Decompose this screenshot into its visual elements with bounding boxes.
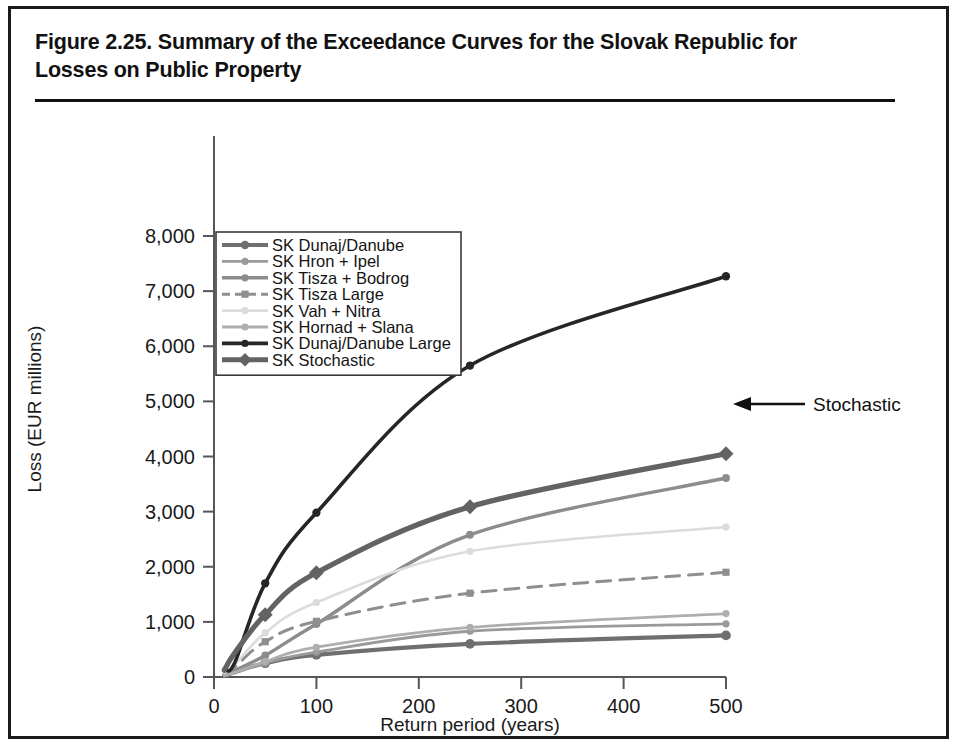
legend-item-7[interactable]: SK Stochastic [222,351,375,369]
series-marker-diamond [719,446,734,461]
series-marker-circle [721,631,731,641]
legend-label: SK Dunaj/Danube [272,236,404,254]
y-axis-ticks: 01,0002,0003,0004,0005,0006,0007,0008,00… [145,225,214,688]
x-axis-ticks: 0100200300400500 [208,677,742,717]
y-tick-label: 8,000 [145,225,195,247]
legend-label: SK Tisza Large [272,285,384,303]
series-0 [224,631,731,676]
series-marker-square [241,291,248,298]
series-marker-circle [466,548,473,555]
y-tick-label: 4,000 [145,446,195,468]
x-axis-title: Return period (years) [380,714,560,735]
series-marker-square [466,590,473,597]
series-marker-circle [241,274,248,281]
series-marker-diamond [463,499,478,514]
x-tick-label: 500 [709,695,742,717]
legend-label: SK Vah + Nitra [272,302,381,320]
annotation-label: Stochastic [813,394,901,415]
series-marker-circle [313,644,320,651]
y-tick-label: 2,000 [145,556,195,578]
series-marker-square [313,618,320,625]
y-tick-label: 7,000 [145,280,195,302]
y-tick-label: 1,000 [145,611,195,633]
series-marker-circle [241,307,248,314]
legend-label: SK Hornad + Slana [272,318,415,336]
series-marker-circle [465,639,475,649]
series-marker-circle [241,258,248,265]
legend-label: SK Tisza + Bodrog [272,269,409,287]
series-marker-circle [241,340,248,347]
y-tick-label: 6,000 [145,335,195,357]
y-tick-label: 5,000 [145,390,195,412]
chart-plot-area: 01,0002,0003,0004,0005,0006,0007,0008,00… [11,109,952,739]
annotation-arrow-head [733,397,751,411]
series-marker-circle [722,474,730,482]
x-tick-label: 0 [208,695,219,717]
series-marker-circle [313,599,320,606]
series-marker-circle [312,509,320,517]
legend-label: SK Dunaj/Danube Large [272,334,451,352]
figure-inner: Figure 2.25. Summary of the Exceedance C… [11,9,946,736]
series-marker-square [722,569,729,576]
series-marker-circle [722,620,729,627]
x-tick-label: 400 [607,695,640,717]
chart-legend[interactable]: SK Dunaj/DanubeSK Hron + IpelSK Tisza + … [216,232,461,375]
series-marker-circle [722,610,729,617]
y-tick-label: 3,000 [145,501,195,523]
title-divider [35,99,895,102]
series-marker-circle [262,658,269,665]
series-marker-circle [722,272,730,280]
series-marker-circle [466,361,474,369]
series-marker-circle [261,579,269,587]
series-1 [224,620,729,676]
x-tick-label: 100 [300,695,333,717]
series-marker-square [262,638,269,645]
y-axis-title: Loss (EUR millions) [24,326,45,493]
y-tick-label: 0 [184,666,195,688]
series-marker-circle [466,531,474,539]
legend-label: SK Stochastic [272,351,375,369]
figure-frame: Figure 2.25. Summary of the Exceedance C… [8,6,949,739]
legend-label: SK Hron + Ipel [272,252,380,270]
series-marker-circle [241,323,248,330]
stochastic-annotation: Stochastic [733,394,901,415]
series-marker-circle [262,629,269,636]
figure-title: Figure 2.25. Summary of the Exceedance C… [35,29,865,84]
series-marker-circle [722,523,729,530]
series-marker-circle [241,241,249,249]
exceedance-curves-chart: 01,0002,0003,0004,0005,0006,0007,0008,00… [11,109,952,739]
series-marker-circle [466,624,473,631]
